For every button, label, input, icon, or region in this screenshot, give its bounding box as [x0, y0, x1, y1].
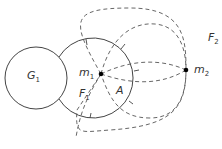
- label-m2: m2: [194, 64, 209, 78]
- label-g1: G1: [27, 70, 40, 84]
- label-m1: m1: [79, 67, 94, 81]
- circle-a-boundary: [59, 38, 133, 118]
- point-m2: [184, 68, 189, 73]
- point-m1: [99, 72, 104, 77]
- label-a: A: [116, 85, 124, 96]
- label-f1: F1: [79, 88, 90, 102]
- label-f2: F2: [208, 32, 219, 46]
